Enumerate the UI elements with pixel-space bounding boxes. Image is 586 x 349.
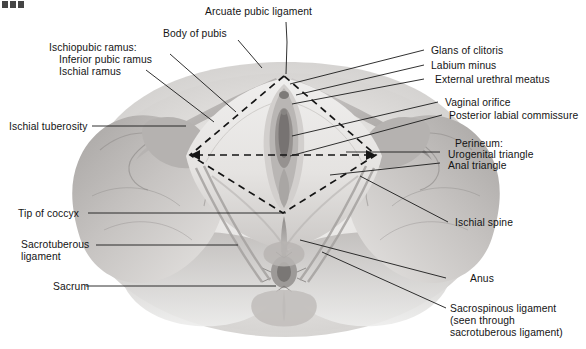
label-posterior-labial-commissure: Posterior labial commissure bbox=[449, 110, 578, 122]
label-ischial-ramus: Ischial ramus bbox=[59, 66, 121, 78]
label-vaginal-orifice: Vaginal orifice bbox=[445, 97, 510, 109]
label-arcuate-pubic-ligament: Arcuate pubic ligament bbox=[205, 6, 312, 18]
label-external-urethral-meatus: External urethral meatus bbox=[435, 74, 550, 86]
label-sacrospinous-ligament-line1: Sacrospinous ligament bbox=[450, 303, 556, 315]
label-anus: Anus bbox=[470, 273, 494, 285]
label-sacrum: Sacrum bbox=[53, 281, 89, 293]
label-tip-of-coccyx: Tip of coccyx bbox=[18, 208, 79, 220]
label-sacrotuberous-ligament-line2: ligament bbox=[21, 251, 61, 263]
label-sacrotuberous-ligament-line1: Sacrotuberous bbox=[21, 239, 89, 251]
label-ischial-tuberosity: Ischial tuberosity bbox=[9, 121, 88, 133]
label-labium-minus: Labium minus bbox=[431, 60, 496, 72]
figure-root: Arcuate pubic ligament Body of pubis Isc… bbox=[0, 0, 586, 349]
label-inferior-pubic-ramus: Inferior pubic ramus bbox=[59, 54, 152, 66]
label-urogenital-triangle: Urogenital triangle bbox=[448, 149, 534, 161]
label-glans-of-clitoris: Glans of clitoris bbox=[431, 45, 503, 57]
label-ischial-spine: Ischial spine bbox=[455, 217, 513, 229]
label-sacrospinous-ligament-line2: (seen through bbox=[450, 315, 515, 327]
label-sacrospinous-ligament-line3: sacrotuberous ligament) bbox=[450, 327, 563, 339]
label-perineum-heading: Perineum: bbox=[455, 138, 503, 150]
label-anal-triangle: Anal triangle bbox=[448, 160, 507, 172]
label-body-of-pubis: Body of pubis bbox=[163, 28, 227, 40]
label-ischiopubic-ramus-heading: Ischiopubic ramus: bbox=[49, 42, 137, 54]
